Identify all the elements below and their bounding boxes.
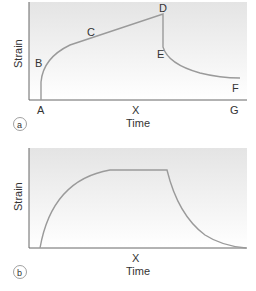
y-label-b: Strain xyxy=(12,182,24,211)
x-label-a: Time xyxy=(126,117,150,129)
plot-area-a xyxy=(29,2,247,100)
chart-b: X Time Strain b xyxy=(12,148,247,279)
label-c: C xyxy=(87,26,95,38)
y-label-a: Strain xyxy=(12,39,24,68)
label-d: D xyxy=(159,2,167,14)
tick-g: G xyxy=(230,104,239,116)
label-b: B xyxy=(35,57,42,69)
panel-badge-a-text: a xyxy=(17,120,22,130)
plot-area-b xyxy=(29,148,247,248)
label-e: E xyxy=(157,48,164,60)
tick-x-b: X xyxy=(132,252,140,264)
x-label-b: Time xyxy=(126,265,150,277)
tick-x-a: X xyxy=(132,104,140,116)
label-f: F xyxy=(232,82,239,94)
chart-a: B C D E F A X G Time Strain a xyxy=(12,2,247,131)
tick-a: A xyxy=(37,104,45,116)
panel-badge-b-text: b xyxy=(17,268,22,278)
figure: B C D E F A X G Time Strain a X Time Str… xyxy=(0,0,256,291)
